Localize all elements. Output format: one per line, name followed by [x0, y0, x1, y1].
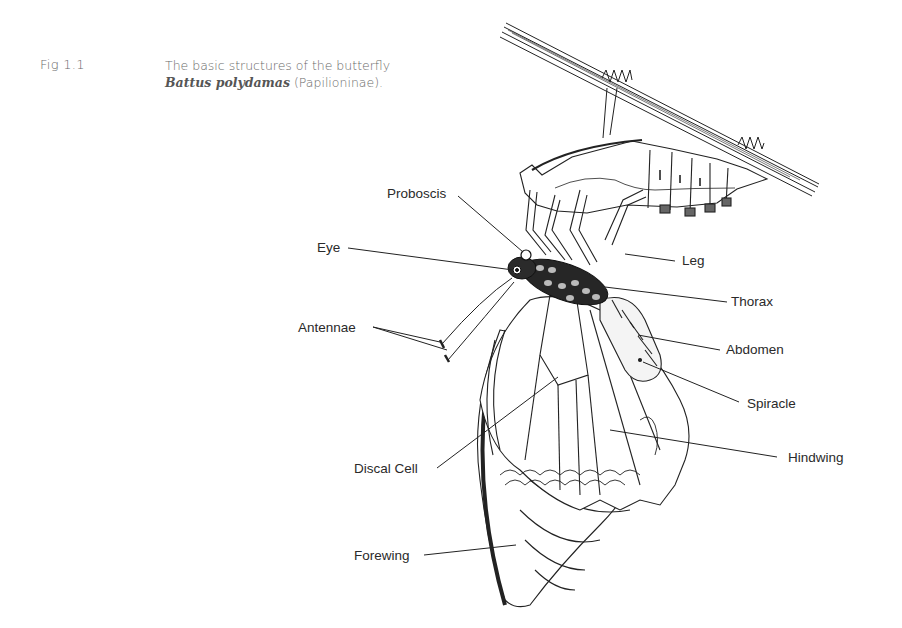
label-forewing: Forewing: [354, 548, 410, 563]
label-thorax: Thorax: [731, 294, 773, 309]
label-spiracle: Spiracle: [747, 396, 796, 411]
label-leg: Leg: [682, 253, 705, 268]
butterfly-illustration: [0, 0, 902, 628]
label-antennae: Antennae: [298, 320, 356, 335]
label-hindwing: Hindwing: [788, 450, 844, 465]
chrysalis: [520, 140, 767, 216]
label-eye: Eye: [317, 240, 340, 255]
label-proboscis: Proboscis: [387, 186, 446, 201]
label-discal-cell: Discal Cell: [354, 461, 418, 476]
label-abdomen: Abdomen: [726, 342, 784, 357]
